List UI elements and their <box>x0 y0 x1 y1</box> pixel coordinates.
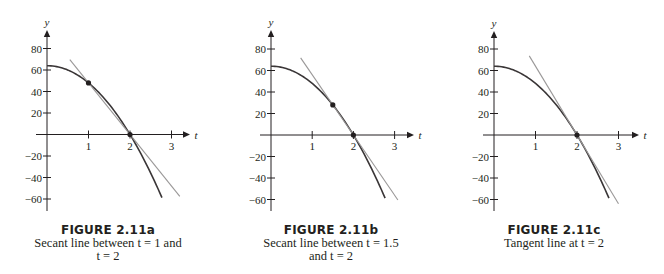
x-axis-arrow-icon <box>632 132 639 138</box>
y-tick-label: 80 <box>31 43 43 55</box>
y-axis-label: y <box>491 17 497 29</box>
y-tick-label: 60 <box>255 65 267 77</box>
caption-2-11c: FIGURE 2.11c Tangent line at t = 2 <box>444 223 664 250</box>
x-axis-label: t <box>418 129 422 141</box>
x-tick-label: 3 <box>392 140 398 152</box>
y-axis-arrow-icon <box>268 30 274 37</box>
y-tick-label: −60 <box>249 194 267 206</box>
figure-title: FIGURE 2.11c <box>444 223 664 237</box>
x-tick-label: 1 <box>309 140 315 152</box>
data-point <box>351 132 356 137</box>
secant-line <box>301 58 398 200</box>
data-point <box>127 132 132 137</box>
x-axis-arrow-icon <box>407 132 414 138</box>
y-axis-label: y <box>44 16 50 28</box>
figure-caption-line: t = 2 <box>0 250 216 263</box>
x-tick-label: 2 <box>127 140 133 152</box>
y-axis-arrow-icon <box>491 31 497 38</box>
y-tick-label: −40 <box>472 172 490 184</box>
data-point <box>86 80 91 85</box>
x-tick-label: 1 <box>533 140 539 152</box>
position-curve <box>47 66 162 198</box>
y-tick-label: 20 <box>478 108 490 120</box>
y-tick-label: −60 <box>25 193 43 205</box>
chart-panel-2-11b: yt12380604020−20−40−60 <box>249 16 423 211</box>
caption-2-11b: FIGURE 2.11b Secant line between t = 1.5… <box>222 223 440 263</box>
x-tick-label: 3 <box>169 140 175 152</box>
y-tick-label: 40 <box>255 86 267 98</box>
y-axis-arrow-icon <box>44 30 50 37</box>
x-tick-label: 3 <box>616 140 622 152</box>
chart-panel-2-11a: yt12380604020−20−40−60 <box>25 16 199 211</box>
y-tick-label: −20 <box>472 151 490 163</box>
x-axis-label: t <box>643 129 647 141</box>
position-curve <box>271 66 385 198</box>
secant-line <box>70 60 180 197</box>
position-curve <box>494 66 609 198</box>
y-tick-label: −60 <box>472 194 490 206</box>
x-tick-label: 1 <box>86 140 92 152</box>
y-axis-label: y <box>268 16 274 28</box>
y-tick-label: 80 <box>478 43 490 55</box>
figure-title: FIGURE 2.11b <box>222 223 440 237</box>
tangent-line <box>529 56 618 204</box>
figure-caption-line: Tangent line at t = 2 <box>444 237 664 250</box>
figure-title: FIGURE 2.11a <box>0 223 216 237</box>
chart-panel-2-11c: yt12380604020−20−40−60 <box>472 17 648 211</box>
caption-2-11a: FIGURE 2.11a Secant line between t = 1 a… <box>0 223 216 263</box>
x-axis-label: t <box>194 129 198 141</box>
y-tick-label: −20 <box>25 150 43 162</box>
y-tick-label: 20 <box>255 108 267 120</box>
y-tick-label: −40 <box>249 172 267 184</box>
x-tick-label: 2 <box>351 140 357 152</box>
y-tick-label: −40 <box>25 172 43 184</box>
x-axis-arrow-icon <box>183 131 190 137</box>
y-tick-label: 40 <box>31 86 43 98</box>
y-tick-label: 80 <box>255 43 267 55</box>
x-tick-label: 2 <box>574 140 580 152</box>
data-point <box>330 102 335 107</box>
figure-caption-line: and t = 2 <box>222 250 440 263</box>
y-tick-label: −20 <box>249 151 267 163</box>
y-tick-label: 40 <box>478 86 490 98</box>
y-tick-label: 60 <box>478 65 490 77</box>
y-tick-label: 60 <box>31 64 43 76</box>
y-tick-label: 20 <box>31 107 43 119</box>
data-point <box>574 132 579 137</box>
